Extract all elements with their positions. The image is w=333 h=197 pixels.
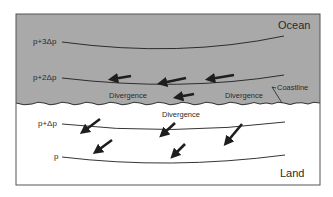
ocean-label: Ocean [278, 20, 310, 31]
coastline-label: Coastline [277, 84, 308, 92]
divergence-label-land: Divergence [162, 111, 200, 119]
divergence-label-ocean-left: Divergence [109, 92, 147, 100]
isobar-label-p-plus-3dp: p+3Δp [33, 38, 56, 46]
isobar-label-p: p [54, 153, 58, 161]
land-label: Land [280, 168, 304, 179]
isobar-p [62, 155, 285, 163]
land-flow-arrows [84, 119, 242, 155]
isobar-label-p-plus-dp: p+Δp [38, 120, 57, 128]
isobar-label-p-plus-2dp: p+2Δp [33, 74, 56, 82]
divergence-label-ocean-right: Divergence [225, 92, 263, 100]
